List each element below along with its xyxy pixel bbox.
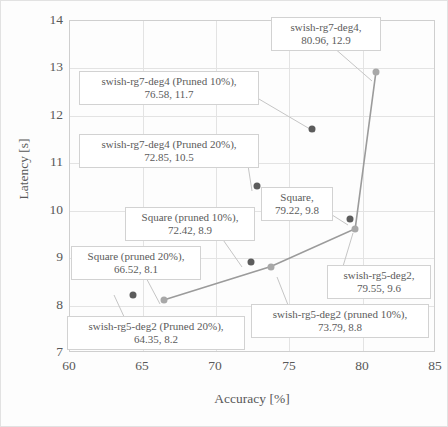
annotation-swish-rg5-deg2-pruned-10: swish-rg5-deg2 (pruned 10%), 73.79, 8.8 <box>251 304 429 338</box>
gridline-y-12 <box>70 116 434 117</box>
annotation-line-2: 80.96, 12.9 <box>277 34 375 47</box>
annotation-swish-rg7-deg4: swish-rg7-deg4, 80.96, 12.9 <box>271 17 381 51</box>
data-point-marker <box>372 69 379 76</box>
annotation-line-1: swish-rg7-deg4, <box>291 21 362 33</box>
y-tick-13: 13 <box>27 60 63 74</box>
annotation-line-1: swish-rg7-deg4 (Pruned 10%), <box>101 75 236 87</box>
y-tick-14: 14 <box>27 13 63 27</box>
annotation-line-2: 79.55, 9.6 <box>333 282 425 295</box>
x-tick-60: 60 <box>49 359 89 373</box>
data-point-marker <box>267 263 274 270</box>
x-tick-70: 70 <box>195 359 235 373</box>
plot-area <box>69 20 435 352</box>
data-point-marker <box>347 216 354 223</box>
chart-figure: 14 13 12 11 10 9 8 7 60 65 70 75 80 85 L… <box>0 0 448 427</box>
annotation-square-pruned-10: Square (pruned 10%), 72.42, 8.9 <box>125 207 255 241</box>
annotation-line-2: 72.85, 10.5 <box>85 151 253 164</box>
data-point-marker <box>129 292 136 299</box>
x-tick-85: 85 <box>415 359 448 373</box>
annotation-swish-rg5-deg2: swish-rg5-deg2, 79.55, 9.6 <box>327 265 431 299</box>
annotation-line-1: Square (pruned 10%), <box>142 211 239 223</box>
annotation-line-2: 76.58, 11.7 <box>85 88 253 101</box>
data-point-marker <box>254 183 261 190</box>
x-axis-title: Accuracy [%] <box>69 391 435 407</box>
x-tick-65: 65 <box>122 359 162 373</box>
y-axis-title: Latency [s] <box>16 114 32 224</box>
gridline-x-75 <box>289 21 290 351</box>
annotation-square: Square, 79.22, 9.8 <box>261 187 333 221</box>
x-tick-75: 75 <box>269 359 309 373</box>
data-point-marker <box>352 225 359 232</box>
y-tick-7: 7 <box>27 345 63 359</box>
annotation-line-1: Square, <box>280 191 313 203</box>
y-tick-10: 10 <box>27 203 63 217</box>
annotation-line-1: Square (pruned 20%), <box>88 250 185 262</box>
annotation-line-2: 72.42, 8.9 <box>131 224 249 237</box>
annotation-line-1: swish-rg5-deg2 (pruned 10%), <box>273 308 408 320</box>
y-tick-9: 9 <box>27 250 63 264</box>
annotation-swish-rg7-deg4-pruned-10: swish-rg7-deg4 (Pruned 10%), 76.58, 11.7 <box>79 71 259 105</box>
annotation-line-2: 79.22, 9.8 <box>267 204 327 217</box>
annotation-line-1: swish-rg7-deg4 (Pruned 20%), <box>101 138 236 150</box>
data-point-marker <box>161 296 168 303</box>
x-tick-80: 80 <box>342 359 382 373</box>
y-tick-8: 8 <box>27 298 63 312</box>
gridline-x-80 <box>363 21 364 351</box>
data-point-marker <box>308 126 315 133</box>
annotation-swish-rg7-deg4-pruned-20: swish-rg7-deg4 (Pruned 20%), 72.85, 10.5 <box>79 134 259 168</box>
annotation-line-1: swish-rg5-deg2, <box>344 269 415 281</box>
data-point-marker <box>247 258 254 265</box>
annotation-line-1: swish-rg5-deg2 (Pruned 20%), <box>88 320 223 332</box>
annotation-line-2: 66.52, 8.1 <box>77 263 195 276</box>
y-tick-11: 11 <box>27 155 63 169</box>
gridline-y-13 <box>70 68 434 69</box>
annotation-line-2: 73.79, 8.8 <box>257 321 423 334</box>
annotation-swish-rg5-deg2-pruned-20: swish-rg5-deg2 (Pruned 20%), 64.35, 8.2 <box>67 316 245 350</box>
y-tick-12: 12 <box>27 108 63 122</box>
annotation-line-2: 64.35, 8.2 <box>73 333 239 346</box>
annotation-square-pruned-20: Square (pruned 20%), 66.52, 8.1 <box>71 246 201 280</box>
